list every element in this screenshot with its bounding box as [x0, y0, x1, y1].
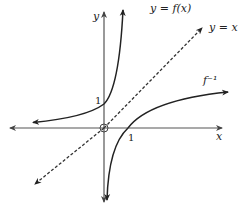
- curve-f-inverse-lower: [107, 128, 128, 200]
- y-axis-label: y: [92, 10, 100, 23]
- label-f: y = f(x): [149, 2, 191, 15]
- label-identity: y = x: [208, 21, 238, 34]
- curve-f: [33, 104, 104, 123]
- label-f-inverse: f⁻¹: [202, 74, 217, 87]
- identity-line-lower: [35, 128, 104, 184]
- x-axis-label: x: [216, 130, 223, 143]
- identity-line: [104, 28, 202, 128]
- x-tick-one: 1: [128, 132, 134, 143]
- curve-f-upper: [104, 10, 123, 104]
- curve-f-inverse: [128, 92, 228, 128]
- function-inverse-diagram: y x 1 1 y = f(x) y = x f⁻¹: [0, 0, 240, 207]
- y-tick-one: 1: [95, 95, 101, 106]
